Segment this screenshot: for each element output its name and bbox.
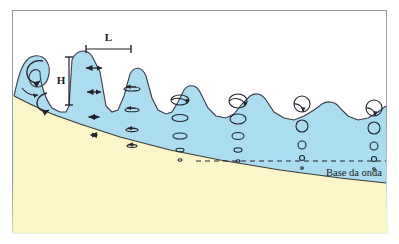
wavelength-label: L xyxy=(105,31,112,43)
wave-diagram-svg: L H Base da onda xyxy=(0,0,399,244)
diagram-canvas: L H Base da onda xyxy=(0,0,399,244)
waveheight-label: H xyxy=(57,74,66,86)
wave-base-label: Base da onda xyxy=(326,167,382,178)
wave-diagram-figure: L H Base da onda xyxy=(0,0,399,244)
